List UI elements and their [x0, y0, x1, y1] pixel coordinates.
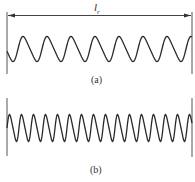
figure-canvas — [0, 0, 195, 182]
profile-curve-a — [7, 37, 192, 62]
caption-b: (b) — [90, 164, 102, 175]
length-label: lr — [94, 1, 100, 16]
caption-a: (a) — [91, 74, 102, 85]
profile-curve-b — [7, 115, 192, 142]
